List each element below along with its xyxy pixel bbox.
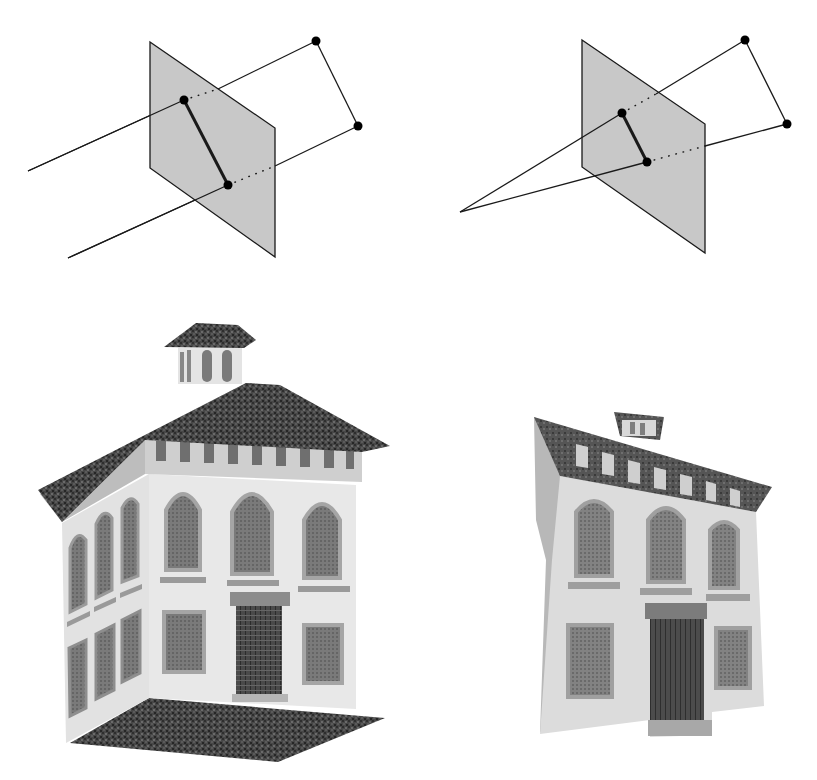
- front-door: [230, 592, 290, 702]
- front-door: [645, 603, 712, 736]
- image-point: [643, 158, 652, 167]
- cupola: [164, 323, 256, 384]
- perspective-projection-diagram: [0, 0, 817, 290]
- projection-ray-back: [656, 40, 745, 94]
- projection-ray-back: [705, 124, 787, 146]
- house-render-reprojected: [410, 390, 817, 750]
- house-render-original: [0, 300, 410, 780]
- house-reprojected-svg: [410, 390, 817, 750]
- world-segment: [745, 40, 787, 124]
- image-plane: [582, 40, 705, 253]
- perspective-projection-svg: [0, 0, 817, 290]
- cupola: [614, 412, 664, 440]
- image-point: [618, 109, 627, 118]
- world-point: [783, 120, 792, 129]
- world-point: [741, 36, 750, 45]
- house-original-svg: [0, 300, 410, 780]
